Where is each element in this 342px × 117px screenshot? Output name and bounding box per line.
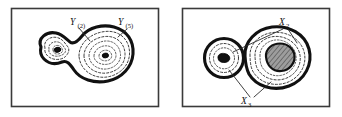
panel-left: Y (2) Y (5) [0,0,171,117]
label-x-2-subscript: 2 [286,22,289,29]
label-y-2-subscript: (2) [78,22,86,30]
label-x-3-base: X [240,96,248,106]
label-x-2-base: X [278,17,286,27]
panel-right: X 2 X 3 [171,0,342,117]
figure-root: Y (2) Y (5) [0,0,342,117]
label-y-5-subscript: (5) [126,22,134,30]
core-hatched-large [266,44,295,72]
core-small [218,53,230,62]
